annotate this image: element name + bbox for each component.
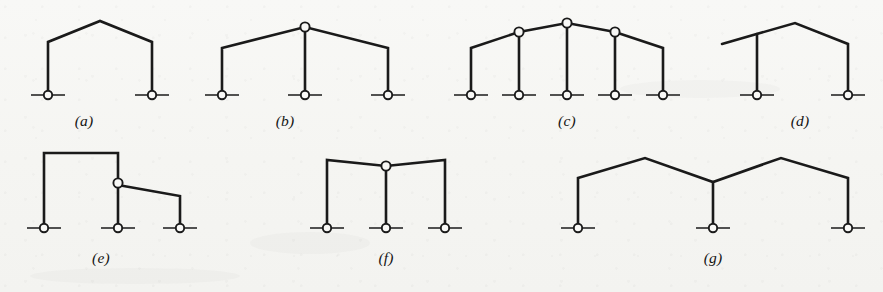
pinned-support bbox=[382, 224, 390, 232]
frame-d: single-bay gable frame with cantilever o… bbox=[722, 23, 865, 130]
pinned-support bbox=[467, 91, 475, 99]
pinned-support bbox=[176, 224, 184, 232]
pinned-support bbox=[44, 91, 52, 99]
internal-hinge bbox=[113, 178, 122, 187]
pinned-support bbox=[709, 224, 717, 232]
frame-g: two-bay double-gable frame with central … bbox=[561, 158, 865, 267]
pinned-support bbox=[515, 91, 523, 99]
figure-container: single-bay gable frame, two pinned suppo… bbox=[0, 0, 883, 292]
internal-hinge bbox=[381, 161, 390, 170]
internal-hinge bbox=[300, 22, 309, 31]
frame-e: stepped two-bay frame, tall left bay and… bbox=[27, 153, 197, 267]
pinned-support bbox=[301, 91, 309, 99]
internal-hinge bbox=[562, 18, 571, 27]
pinned-support bbox=[323, 224, 331, 232]
frame-label: (b) bbox=[276, 112, 295, 130]
pinned-support bbox=[148, 91, 156, 99]
frame-c: four-bay gable frame, five pinned suppor… bbox=[454, 18, 680, 130]
internal-hinge bbox=[610, 27, 619, 36]
frame-label: (d) bbox=[791, 112, 810, 130]
pinned-support bbox=[114, 224, 122, 232]
frame-label: (g) bbox=[704, 249, 723, 267]
pinned-support bbox=[844, 91, 852, 99]
pinned-support bbox=[441, 224, 449, 232]
pinned-support bbox=[844, 224, 852, 232]
frame-member-path bbox=[48, 21, 152, 95]
pinned-support bbox=[753, 91, 761, 99]
frame-member-path bbox=[44, 153, 118, 228]
frame-label: (e) bbox=[92, 249, 110, 267]
frame-label: (f) bbox=[378, 249, 393, 267]
pinned-support bbox=[611, 91, 619, 99]
internal-hinge bbox=[514, 27, 523, 36]
pinned-support bbox=[384, 91, 392, 99]
pinned-support bbox=[659, 91, 667, 99]
frame-f: two-bay frame with shallow peak, three p… bbox=[310, 160, 462, 267]
frame-label: (a) bbox=[75, 112, 94, 130]
frames-diagram: single-bay gable frame, two pinned suppo… bbox=[0, 0, 883, 292]
pinned-support bbox=[563, 91, 571, 99]
interior-column bbox=[118, 185, 180, 228]
pinned-support bbox=[218, 91, 226, 99]
pinned-support bbox=[574, 224, 582, 232]
frame-a: single-bay gable frame, two pinned suppo… bbox=[31, 21, 169, 130]
frame-member-path bbox=[722, 23, 848, 95]
frame-b: two-bay gable frame, three pinned suppor… bbox=[205, 22, 405, 130]
pinned-support bbox=[40, 224, 48, 232]
frame-label: (c) bbox=[558, 112, 576, 130]
